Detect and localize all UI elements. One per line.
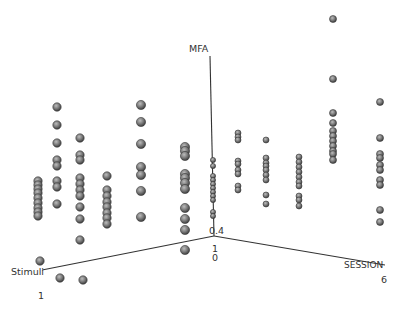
data-point xyxy=(76,192,84,200)
data-point xyxy=(377,135,384,142)
data-point xyxy=(136,212,145,221)
data-point xyxy=(330,157,337,164)
data-point xyxy=(180,225,189,234)
data-point xyxy=(210,163,215,168)
data-point xyxy=(180,151,189,160)
data-point xyxy=(34,212,42,220)
data-point xyxy=(377,182,384,189)
mfa-axis xyxy=(210,56,214,236)
data-point xyxy=(53,103,61,111)
data-point xyxy=(235,187,241,193)
data-point xyxy=(53,162,61,170)
data-point xyxy=(79,276,87,284)
data-point xyxy=(263,177,269,183)
data-point xyxy=(76,215,84,223)
data-point xyxy=(210,197,215,202)
data-point xyxy=(76,156,84,164)
data-point xyxy=(136,186,145,195)
session-tick-6: 6 xyxy=(381,275,387,285)
data-point xyxy=(235,161,241,167)
data-point xyxy=(36,257,44,265)
stimuli-axis-label: Stimuli xyxy=(11,267,44,277)
data-point xyxy=(56,274,64,282)
data-point xyxy=(53,200,61,208)
data-point xyxy=(377,155,384,162)
data-point xyxy=(377,99,384,106)
data-point xyxy=(235,171,241,177)
data-point xyxy=(263,201,269,207)
data-point xyxy=(76,203,84,211)
mfa-axis-label: MFA xyxy=(189,44,208,54)
data-point xyxy=(377,167,384,174)
data-point xyxy=(263,192,269,198)
data-point xyxy=(330,76,337,83)
data-point xyxy=(76,134,84,142)
data-point xyxy=(136,100,145,109)
data-point xyxy=(210,157,215,162)
data-point xyxy=(377,207,384,214)
stimuli-tick-1: 1 xyxy=(38,291,44,301)
data-point xyxy=(235,137,241,143)
data-point xyxy=(180,245,189,254)
data-points xyxy=(34,16,384,285)
data-point xyxy=(330,16,337,23)
data-point xyxy=(53,139,61,147)
session-axis-label: SESSION xyxy=(344,261,383,270)
data-point xyxy=(136,170,145,179)
data-point xyxy=(180,214,189,223)
data-point xyxy=(53,121,61,129)
data-point xyxy=(377,219,384,226)
data-point xyxy=(180,184,189,193)
data-point xyxy=(330,110,337,117)
data-point xyxy=(296,183,302,189)
data-point xyxy=(103,220,111,228)
data-point xyxy=(53,183,61,191)
data-point xyxy=(296,203,302,209)
data-point xyxy=(210,213,215,218)
data-point xyxy=(330,120,337,127)
data-point xyxy=(136,117,145,126)
mfa-min-tick: 0.4 xyxy=(209,226,224,236)
data-point xyxy=(76,236,84,244)
origin-tick-0: 0 xyxy=(212,253,218,263)
data-point xyxy=(296,197,302,203)
data-point xyxy=(263,137,269,143)
data-point xyxy=(103,172,111,180)
data-point xyxy=(180,203,189,212)
data-point xyxy=(136,139,145,148)
